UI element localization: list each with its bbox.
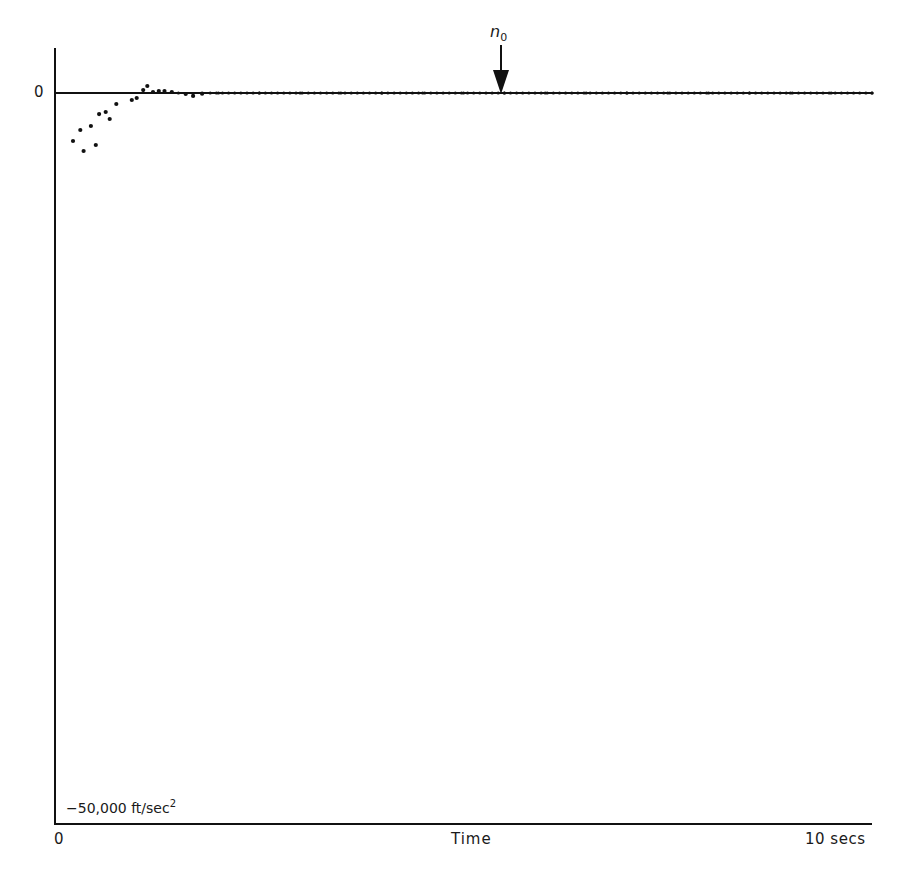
data-point	[368, 91, 371, 94]
data-point	[852, 91, 855, 94]
data-point	[417, 91, 420, 94]
data-point	[472, 91, 475, 94]
data-point	[834, 91, 837, 94]
data-point	[276, 91, 279, 94]
data-point	[264, 91, 267, 94]
data-point	[393, 91, 396, 94]
data-point	[552, 91, 555, 94]
data-point	[114, 102, 118, 106]
data-point	[680, 91, 683, 94]
data-point	[135, 96, 139, 100]
data-point	[454, 91, 457, 94]
data-point	[448, 91, 451, 94]
data-point	[319, 91, 322, 94]
data-point	[151, 90, 155, 94]
data-point	[754, 91, 757, 94]
n0-arrow-icon	[493, 45, 509, 94]
data-point	[650, 91, 653, 94]
data-point	[350, 91, 353, 94]
data-point	[509, 91, 512, 94]
data-point	[460, 91, 463, 94]
data-point	[631, 91, 634, 94]
data-point	[601, 91, 604, 94]
data-point	[748, 91, 751, 94]
data-point	[89, 124, 93, 128]
data-point	[870, 91, 873, 94]
data-point	[258, 91, 261, 94]
data-point	[674, 91, 677, 94]
data-point	[791, 91, 794, 94]
data-point	[723, 91, 726, 94]
data-point	[613, 91, 616, 94]
data-point	[656, 91, 659, 94]
data-point	[380, 91, 383, 94]
data-point	[294, 91, 297, 94]
data-point	[239, 91, 242, 94]
data-point	[864, 91, 867, 94]
data-point	[809, 91, 812, 94]
data-point	[162, 89, 166, 93]
data-point	[157, 89, 161, 93]
data-point	[846, 91, 849, 94]
data-point	[662, 91, 665, 94]
data-point	[644, 91, 647, 94]
data-point	[209, 91, 212, 94]
data-point	[442, 91, 445, 94]
data-point	[619, 91, 622, 94]
data-point	[331, 91, 334, 94]
data-point	[607, 91, 610, 94]
data-point	[821, 91, 824, 94]
data-point	[478, 91, 481, 94]
data-point	[576, 91, 579, 94]
data-point	[233, 91, 236, 94]
data-point	[108, 117, 112, 121]
data-point	[374, 91, 377, 94]
data-point	[521, 91, 524, 94]
data-point	[717, 91, 720, 94]
data-point	[840, 91, 843, 94]
data-point	[533, 91, 536, 94]
data-point	[307, 91, 310, 94]
data-point	[515, 91, 518, 94]
data-point	[386, 91, 389, 94]
data-point	[141, 88, 145, 92]
data-point	[435, 91, 438, 94]
data-point	[399, 91, 402, 94]
data-point	[582, 91, 585, 94]
data-point	[638, 91, 641, 94]
data-point	[362, 91, 365, 94]
data-points	[71, 84, 874, 153]
data-point	[227, 91, 230, 94]
data-point	[546, 91, 549, 94]
data-point	[785, 91, 788, 94]
data-point	[288, 91, 291, 94]
data-point	[145, 84, 149, 88]
data-point	[815, 91, 818, 94]
data-point	[497, 91, 500, 94]
data-point	[82, 149, 86, 153]
axes	[54, 48, 872, 825]
data-point	[779, 91, 782, 94]
data-point	[705, 91, 708, 94]
data-point	[215, 91, 218, 94]
data-point	[730, 91, 733, 94]
data-point	[766, 91, 769, 94]
data-point	[356, 91, 359, 94]
data-point	[104, 110, 108, 114]
data-point	[527, 91, 530, 94]
data-point	[466, 91, 469, 94]
data-point	[429, 91, 432, 94]
data-point	[711, 91, 714, 94]
data-point	[270, 91, 273, 94]
data-point	[858, 91, 861, 94]
data-point	[301, 91, 304, 94]
x-axis-label: Time	[451, 830, 492, 848]
data-point	[693, 91, 696, 94]
data-point	[570, 91, 573, 94]
data-point	[78, 128, 82, 132]
data-point	[130, 98, 134, 102]
data-point	[177, 91, 180, 94]
data-point	[343, 91, 346, 94]
data-point	[828, 91, 831, 94]
data-point	[797, 91, 800, 94]
